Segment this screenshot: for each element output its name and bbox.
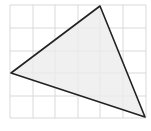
triangle-diagram: [0, 0, 151, 131]
